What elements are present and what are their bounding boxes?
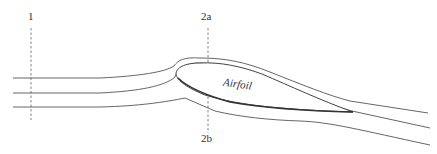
- airfoil-streamline-diagram: 1 2a 2b Airfoil: [0, 0, 437, 154]
- station-2a-label: 2a: [201, 10, 212, 22]
- diagram-svg: 1 2a 2b Airfoil: [0, 0, 437, 154]
- station-2b-label: 2b: [201, 132, 213, 144]
- lower-streamline: [13, 98, 430, 145]
- station-1-label: 1: [28, 10, 34, 22]
